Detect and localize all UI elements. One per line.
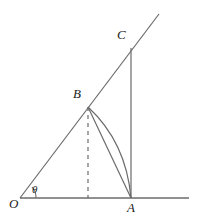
- angle-label-theta: θ: [32, 184, 37, 195]
- segment-BA-line: [88, 107, 131, 198]
- geometry-figure: [0, 0, 198, 224]
- point-label-C: C: [117, 28, 126, 41]
- point-label-B: B: [73, 87, 81, 100]
- ray-OC-line: [20, 14, 159, 198]
- figure-strokes: [20, 14, 189, 198]
- point-label-A: A: [127, 201, 135, 214]
- point-label-O: O: [9, 197, 18, 210]
